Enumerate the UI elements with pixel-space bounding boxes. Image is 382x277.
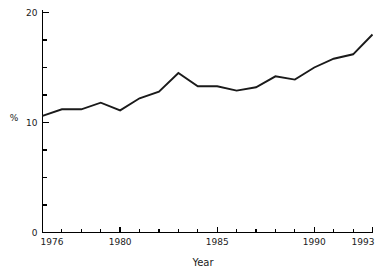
x-axis-title: Year <box>191 257 214 268</box>
x-tick-label: 1980 <box>109 237 132 247</box>
chart-container: 01020 19761980198519901993 % Year <box>0 0 382 277</box>
x-tick-label: 1990 <box>303 237 326 247</box>
x-tick-label: 1993 <box>352 237 375 247</box>
y-axis-title: % <box>10 113 19 123</box>
x-tick-label: 1985 <box>206 237 229 247</box>
chart-background <box>0 0 382 277</box>
y-tick-label: 10 <box>26 118 38 128</box>
y-tick-label: 0 <box>32 228 38 238</box>
y-tick-label: 20 <box>26 8 38 18</box>
line-chart: 01020 19761980198519901993 % Year <box>0 0 382 277</box>
x-tick-label: 1976 <box>41 237 64 247</box>
